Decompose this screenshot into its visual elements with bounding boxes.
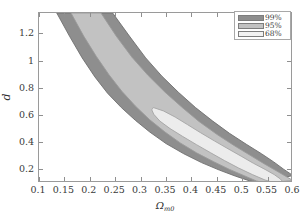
legend-box: 99%95%68% [234,11,291,40]
legend-item: 68% [237,30,288,37]
y-tick-mark [39,115,43,116]
legend-label: 99% [265,14,282,21]
y-tick-mark [39,61,43,62]
x-tick-mark [39,177,40,181]
legend-item: 95% [237,22,288,29]
x-tick-label: 0.3 [132,184,147,195]
x-tick-label: 0.6 [284,184,299,195]
x-tick-mark [166,13,167,17]
y-tick-label: 0.6 [19,109,34,120]
x-tick-mark [191,177,192,181]
y-tick-mark [39,88,43,89]
x-tick-label: 0.1 [30,184,45,195]
y-tick-label: 0.4 [19,136,34,147]
y-tick-mark [287,88,291,89]
x-tick-mark [141,13,142,17]
x-tick-mark [90,13,91,17]
y-tick-mark [287,61,291,62]
y-tick-mark [287,115,291,116]
y-tick-mark [39,169,43,170]
y-tick-mark [287,169,291,170]
x-tick-mark [90,177,91,181]
x-tick-mark [217,177,218,181]
legend-item: 99% [237,14,288,21]
figure-canvas: d 0.10.150.20.250.30.350.40.450.50.550.6… [0,0,305,223]
x-tick-label: 0.55 [256,184,277,195]
x-tick-label: 0.4 [183,184,198,195]
y-tick-label: 0.2 [19,163,34,174]
x-tick-mark [242,177,243,181]
y-tick-label: 0.8 [19,81,34,92]
x-tick-mark [64,177,65,181]
x-tick-mark [39,13,40,17]
x-axis-title: Ωm0 [156,200,175,213]
x-tick-label: 0.2 [81,184,96,195]
y-tick-label: 1 [28,54,34,65]
x-tick-label: 0.25 [104,184,125,195]
x-tick-mark [268,177,269,181]
x-tick-mark [141,177,142,181]
legend-label: 95% [265,22,282,29]
y-tick-mark [287,142,291,143]
x-tick-label: 0.5 [234,184,249,195]
x-tick-mark [191,13,192,17]
legend-swatch [238,31,264,37]
legend-swatch [238,23,264,29]
x-tick-mark [217,13,218,17]
x-tick-mark [115,13,116,17]
x-tick-label: 0.45 [205,184,226,195]
legend-label: 68% [265,30,282,37]
x-tick-mark [166,177,167,181]
x-tick-mark [64,13,65,17]
x-tick-label: 0.15 [53,184,74,195]
x-axis-title-subscript: m0 [164,205,174,213]
x-tick-mark [115,177,116,181]
y-tick-label: 1.2 [19,27,34,38]
y-axis-title: d [0,93,13,100]
y-tick-mark [39,33,43,34]
y-tick-mark [39,142,43,143]
legend-swatch [238,15,264,21]
x-tick-label: 0.35 [154,184,175,195]
